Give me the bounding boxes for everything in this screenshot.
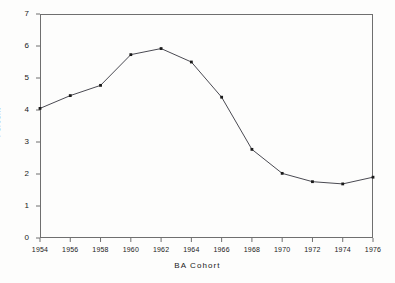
data-point-marker xyxy=(39,107,42,110)
data-series-line xyxy=(40,49,373,184)
data-point-marker xyxy=(311,180,314,183)
x-tick-label: 1970 xyxy=(265,246,299,254)
data-point-marker xyxy=(281,172,284,175)
data-point-marker xyxy=(341,183,344,186)
y-tick-label: 2 xyxy=(11,170,29,178)
data-point-marker xyxy=(251,148,254,151)
data-point-marker xyxy=(372,176,375,179)
x-axis-ticks xyxy=(40,238,373,242)
y-axis-ticks xyxy=(36,14,40,238)
data-point-marker xyxy=(99,84,102,87)
x-tick-label: 1968 xyxy=(235,246,269,254)
data-point-markers xyxy=(39,47,375,185)
data-point-marker xyxy=(190,61,193,64)
x-tick-label: 1964 xyxy=(174,246,208,254)
y-tick-label: 4 xyxy=(11,106,29,114)
x-tick-label: 1966 xyxy=(205,246,239,254)
y-tick-label: 5 xyxy=(11,74,29,82)
data-point-marker xyxy=(220,96,223,99)
y-tick-label: 1 xyxy=(11,202,29,210)
y-axis-title: Percent xyxy=(0,108,2,138)
x-tick-label: 1960 xyxy=(114,246,148,254)
y-tick-label: 6 xyxy=(11,42,29,50)
chart-canvas xyxy=(0,0,395,283)
x-tick-label: 1974 xyxy=(326,246,360,254)
chart-page: 01234567 1954195619581960196219641966196… xyxy=(0,0,395,283)
x-tick-label: 1956 xyxy=(53,246,87,254)
data-point-marker xyxy=(129,53,132,56)
data-point-marker xyxy=(69,94,72,97)
x-tick-label: 1962 xyxy=(144,246,178,254)
y-tick-label: 7 xyxy=(11,10,29,18)
x-tick-label: 1954 xyxy=(23,246,57,254)
data-point-marker xyxy=(160,47,163,50)
x-axis-title: BA Cohort xyxy=(0,261,395,270)
y-tick-label: 3 xyxy=(11,138,29,146)
y-tick-label: 0 xyxy=(11,234,29,242)
x-tick-label: 1972 xyxy=(295,246,329,254)
x-tick-label: 1958 xyxy=(84,246,118,254)
x-tick-label: 1976 xyxy=(356,246,390,254)
